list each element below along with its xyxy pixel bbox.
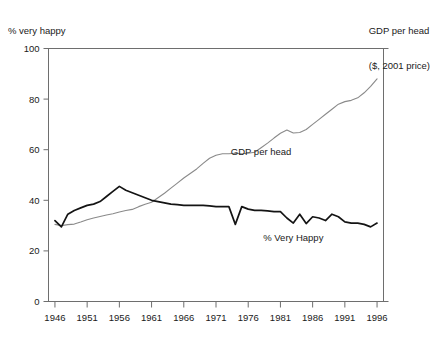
y-tick-label: 80	[29, 94, 40, 105]
y-tick-label: 100	[24, 43, 40, 54]
x-axis-ticks: 1946195119561961196619711976198119861991…	[44, 302, 387, 323]
x-tick-label: 1966	[173, 312, 194, 323]
x-tick-label: 1946	[44, 312, 65, 323]
y-tick-label: 40	[29, 195, 40, 206]
x-tick-label: 1986	[302, 312, 323, 323]
x-tick-label: 1971	[205, 312, 226, 323]
plot-frame	[49, 49, 384, 302]
x-tick-label: 1976	[238, 312, 259, 323]
x-tick-label: 1951	[77, 312, 98, 323]
plot-frame-rect	[49, 49, 384, 302]
data-series	[55, 79, 377, 227]
series-line-very-happy	[55, 186, 377, 226]
left-axis-caption: % very happy	[8, 25, 66, 37]
chart-figure: % very happy GDP per head ($, 2001 price…	[0, 0, 436, 338]
annotation-happy: % Very Happy	[263, 232, 323, 243]
x-tick-label: 1956	[109, 312, 130, 323]
right-axis-caption-line1: GDP per head	[369, 25, 430, 37]
x-tick-label: 1981	[270, 312, 291, 323]
x-tick-label: 1961	[141, 312, 162, 323]
right-axis-caption-line2: ($, 2001 price)	[369, 60, 430, 72]
series-annotations: GDP per head% Very Happy	[231, 146, 324, 243]
x-tick-label: 1996	[366, 312, 387, 323]
y-tick-label: 20	[29, 245, 40, 256]
x-tick-label: 1991	[334, 312, 355, 323]
y-axis-ticks: 020406080100	[24, 43, 389, 307]
y-tick-label: 60	[29, 144, 40, 155]
right-axis-caption: GDP per head ($, 2001 price)	[369, 2, 430, 94]
series-line-gdp-per-head	[55, 79, 377, 226]
annotation-gdp: GDP per head	[231, 146, 292, 157]
y-tick-label: 0	[34, 296, 39, 307]
